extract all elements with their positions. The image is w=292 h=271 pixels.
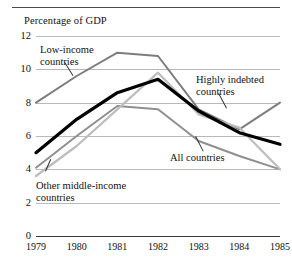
x-axis-tick-label: 1980 — [67, 242, 87, 252]
annotation-other-middle-income-countries: Other middle-income countries — [36, 180, 126, 204]
x-axis-tick-label: 1979 — [26, 242, 46, 252]
chart-figure: Percentage of GDP 024681012 197919801981… — [0, 0, 292, 271]
y-axis-tick-label: 4 — [26, 164, 31, 175]
chart-axis-title: Percentage of GDP — [24, 15, 107, 26]
annotation-all-countries-line1: All countries — [170, 152, 225, 164]
top-rule-divider — [12, 7, 280, 8]
y-axis-tick-label: 8 — [26, 97, 31, 108]
y-axis-tick-label: 6 — [26, 131, 31, 142]
y-axis-tick-label: 10 — [21, 64, 32, 75]
annotation-all-countries: All countries — [170, 152, 225, 164]
annotation-other-middle-income-line1: Other middle-income — [36, 180, 126, 192]
annotation-highly-indebted-countries: Highly indebted countries — [196, 74, 264, 98]
y-axis-tick-label: 12 — [21, 31, 32, 42]
x-axis-line — [36, 236, 280, 237]
annotation-highly-indebted-line2: countries — [196, 86, 264, 98]
x-axis-tick-label: 1981 — [107, 242, 127, 252]
annotation-low-income-line1: Low-income — [40, 44, 94, 56]
x-axis-tick-label: 1983 — [189, 242, 209, 252]
x-axis-tick-label: 1985 — [270, 242, 290, 252]
x-axis-tick-label: 1984 — [229, 242, 249, 252]
annotation-other-middle-income-line2: countries — [36, 192, 126, 204]
y-axis-tick-label: 2 — [26, 197, 31, 208]
annotation-highly-indebted-line1: Highly indebted — [196, 74, 264, 86]
x-axis-tick-label: 1982 — [148, 242, 168, 252]
series-line-other-middle-income-countries — [36, 106, 280, 169]
y-axis-tick-label: 0 — [26, 231, 31, 242]
